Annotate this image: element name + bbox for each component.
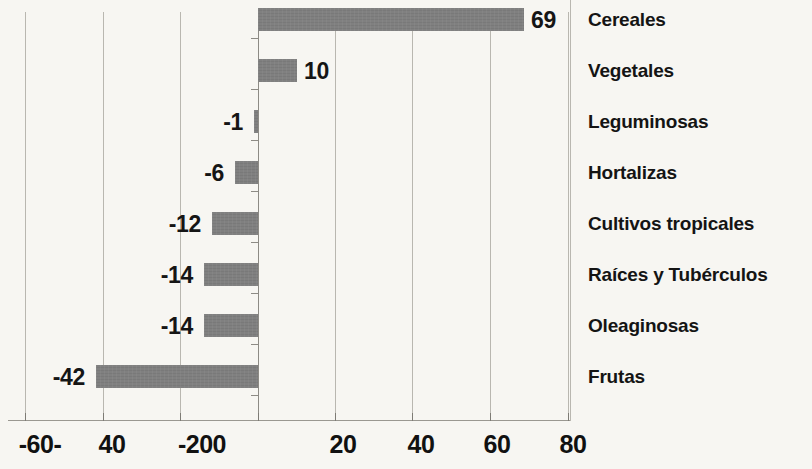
bar-row: 10	[0, 59, 570, 110]
category-label-cultivos-tropicales: Cultivos tropicales	[588, 212, 754, 236]
bar-value-vegetales: 10	[304, 57, 329, 85]
bar-row: -12	[0, 212, 570, 263]
x-axis-tick	[258, 413, 259, 421]
category-labels: Cereales Vegetales Leguminosas Hortaliza…	[570, 0, 812, 421]
category-label-vegetales: Vegetales	[588, 59, 674, 83]
category-label-cereales: Cereales	[588, 8, 666, 32]
bar-value-frutas: -42	[53, 363, 85, 391]
category-label-oleaginosas: Oleaginosas	[588, 314, 699, 338]
bar-row: -1	[0, 110, 570, 161]
bar-value-raices-y-tuberculos: -14	[161, 261, 193, 289]
bar-hortalizas[interactable]	[235, 161, 258, 184]
bar-value-cultivos-tropicales: -12	[169, 210, 201, 238]
x-axis-line	[8, 420, 570, 421]
bar-value-oleaginosas: -14	[161, 312, 193, 340]
bar-value-cereales: 69	[531, 6, 556, 34]
x-axis-tick	[25, 413, 26, 421]
bar-row: -14	[0, 314, 570, 365]
x-axis-tick	[412, 413, 413, 421]
bar-row: -42	[0, 365, 570, 416]
bar-cultivos-tropicales[interactable]	[212, 212, 258, 235]
x-axis-tick	[335, 413, 336, 421]
category-label-raices-y-tuberculos: Raíces y Tubérculos	[588, 263, 768, 287]
x-axis-labels: -60- 40 -200 20 40 60 80	[0, 428, 600, 464]
bar-row: 69	[0, 8, 570, 59]
x-axis-tick	[180, 413, 181, 421]
bar-leguminosas[interactable]	[254, 110, 258, 133]
plot-area: 69 10 -1 -6 -12 -14 -14 -42	[0, 0, 570, 421]
x-axis-tick	[103, 413, 104, 421]
x-tick-label-40: 40	[408, 428, 435, 460]
x-tick-label-20: 20	[330, 428, 357, 460]
category-label-leguminosas: Leguminosas	[588, 110, 708, 134]
x-tick-label--60: -60-	[19, 428, 61, 460]
bar-frutas[interactable]	[96, 365, 258, 388]
bar-value-hortalizas: -6	[204, 159, 224, 187]
category-label-frutas: Frutas	[588, 365, 645, 389]
x-tick-label-60: 60	[484, 428, 511, 460]
category-label-hortalizas: Hortalizas	[588, 161, 677, 185]
bar-vegetales[interactable]	[258, 59, 297, 82]
bar-value-leguminosas: -1	[223, 108, 243, 136]
x-tick-label--20-and-0: -200	[178, 428, 226, 460]
bar-oleaginosas[interactable]	[204, 314, 258, 337]
bar-row: -6	[0, 161, 570, 212]
bar-cereales[interactable]	[258, 8, 524, 31]
bar-raices-y-tuberculos[interactable]	[204, 263, 258, 286]
x-axis-tick	[490, 413, 491, 421]
bar-chart: 69 10 -1 -6 -12 -14 -14 -42	[0, 0, 812, 469]
bar-row: -14	[0, 263, 570, 314]
x-tick-label-80: 80	[560, 428, 587, 460]
x-tick-label--40: 40	[99, 428, 126, 460]
x-axis-tick	[568, 413, 569, 421]
